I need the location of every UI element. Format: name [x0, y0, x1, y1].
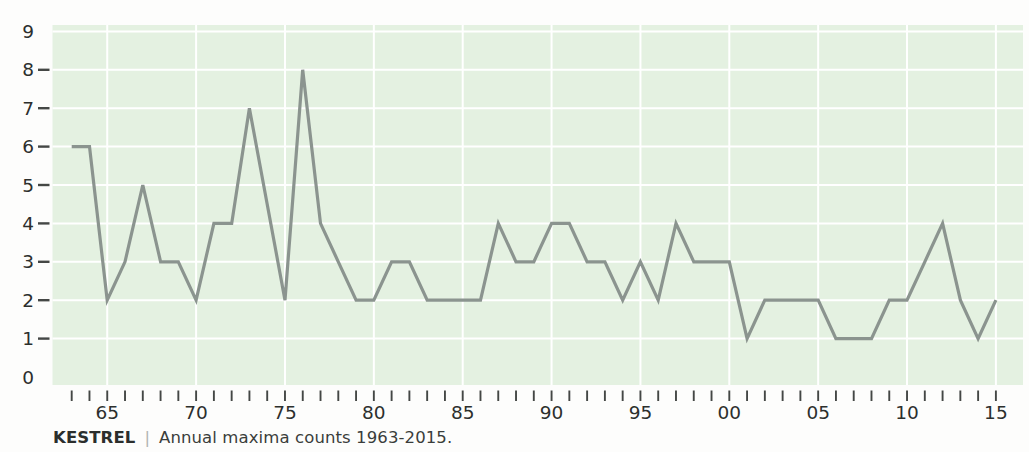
y-axis-label: 3: [22, 251, 34, 272]
y-axis-label: 0: [22, 367, 34, 388]
x-axis-label: 95: [629, 402, 653, 423]
x-axis-label: 85: [451, 402, 475, 423]
y-axis-label: 2: [22, 290, 34, 311]
x-axis-label: 10: [895, 402, 919, 423]
x-axis-label: 80: [362, 402, 386, 423]
kestrel-annual-maxima-page: 01234567896570758085909500051015 KESTREL…: [0, 0, 1029, 452]
y-axis-label: 4: [22, 213, 34, 234]
y-axis-label: 8: [22, 59, 34, 80]
x-axis-label: 00: [718, 402, 742, 423]
y-axis-label: 5: [22, 175, 34, 196]
x-axis-label: 15: [984, 402, 1008, 423]
y-axis-label: 1: [22, 328, 34, 349]
y-axis-label: 7: [22, 98, 34, 119]
x-axis-label: 70: [184, 402, 208, 423]
caption-description: Annual maxima counts 1963-2015.: [159, 428, 452, 447]
chart-caption: KESTREL | Annual maxima counts 1963-2015…: [53, 428, 452, 447]
plot-background: [53, 25, 1024, 385]
x-axis-label: 75: [273, 402, 297, 423]
caption-species-label: KESTREL: [53, 428, 135, 447]
y-axis-label: 6: [22, 136, 34, 157]
x-axis-label: 65: [95, 402, 119, 423]
x-axis-label: 05: [806, 402, 830, 423]
y-axis-label: 9: [22, 21, 34, 42]
x-axis-label: 90: [540, 402, 564, 423]
kestrel-line-chart: 01234567896570758085909500051015: [0, 0, 1029, 426]
caption-separator: |: [144, 428, 150, 447]
